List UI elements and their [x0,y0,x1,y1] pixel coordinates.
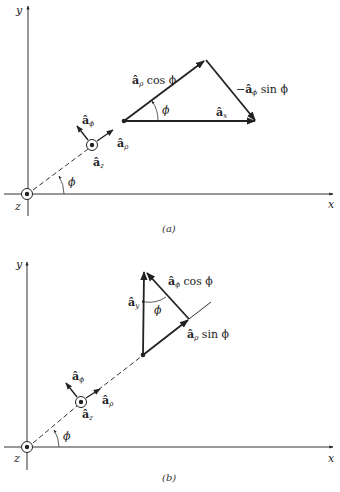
triangle-phi-arc [145,297,166,302]
a-rho-cos-phi-label: âρ cos ϕ [132,74,177,88]
triangle-phi-label: ϕ [162,104,170,117]
triangle-phi-arc [152,101,158,121]
a-phi-vector [77,126,88,140]
a-rho-vector [86,389,100,398]
origin-z-out-of-page-icon [22,442,33,453]
panel-b: y x z ϕ âϕ âρ âz [4,258,335,483]
phi-angle-label: ϕ [68,176,76,189]
a-rho-label: âρ [102,394,114,408]
origin-z-out-of-page-icon [22,189,33,200]
a-z-label: âz [82,408,93,422]
panel-b-caption: (b) [162,472,176,483]
radial-dashed-line-2 [98,356,142,390]
a-phi-label: âϕ [72,370,84,384]
z-axis-label: z [13,452,20,465]
a-y-vector [143,272,144,355]
a-y-label: ây [128,296,140,310]
x-axis-label: x [328,452,335,465]
a-phi-cos-phi-label: âϕ cos ϕ [168,275,213,289]
neg-a-phi-sin-phi-label: −âϕ sin ϕ [236,83,288,97]
z-axis-label: z [14,200,21,213]
x-axis-label: x [328,198,335,211]
a-rho-sin-phi-label: âρ sin ϕ [187,328,230,342]
a-rho-label: âρ [117,137,129,151]
point-z-out-of-page-icon [87,140,98,151]
phi-angle-label: ϕ [63,430,71,443]
a-phi-label: âϕ [82,114,94,128]
a-phi-vector [66,383,77,397]
a-rho-vector [97,130,113,141]
a-rho-sin-phi-vector [143,320,188,355]
radial-solid-extension [189,302,211,319]
point-z-out-of-page-icon [76,397,87,408]
panel-a: y x z ϕ âϕ âρ âz [4,4,335,234]
phi-angle-arc [59,176,64,194]
a-x-label: âx [216,106,227,120]
panel-a-caption: (a) [162,223,176,234]
a-z-label: âz [93,156,104,170]
cylindrical-unit-vector-figure: y x z ϕ âϕ âρ âz [0,0,340,492]
y-axis-label: y [15,258,23,271]
triangle-phi-label: ϕ [154,304,162,317]
radial-dashed-line [33,149,88,190]
y-axis-label: y [15,4,23,17]
phi-angle-arc [54,430,59,447]
